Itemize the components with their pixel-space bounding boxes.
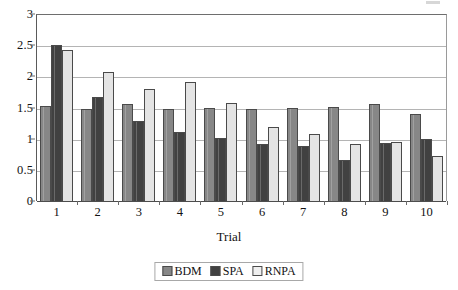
legend-swatch-icon <box>211 266 221 276</box>
x-axis-tick-mark <box>200 201 201 205</box>
legend-swatch-icon <box>253 266 263 276</box>
chart-legend: BDMSPARNPA <box>154 262 303 281</box>
bar-chart-figure: 00.511.522.53 12345678910 Trial BDMSPARN… <box>0 0 458 290</box>
y-axis-labels: 00.511.522.53 <box>0 14 33 201</box>
x-axis-tick-label: 2 <box>78 206 118 219</box>
y-axis-tick-mark <box>30 107 35 108</box>
y-axis-tick-label: 3 <box>3 8 33 21</box>
bar-rnpa-trial-6 <box>268 127 279 201</box>
y-axis-tick-mark <box>30 76 35 77</box>
legend-label: BDM <box>174 265 201 277</box>
bar-rnpa-trial-7 <box>309 134 320 201</box>
bar-bdm-trial-5 <box>204 108 215 201</box>
x-axis-tick-mark <box>324 201 325 205</box>
bar-bdm-trial-9 <box>369 104 380 201</box>
bar-bdm-trial-6 <box>246 109 257 201</box>
bar-bdm-trial-1 <box>40 106 51 201</box>
x-axis-tick-mark <box>242 201 243 205</box>
bar-bdm-trial-10 <box>410 114 421 201</box>
x-axis-tick-mark <box>406 201 407 205</box>
bar-group <box>40 15 73 201</box>
x-axis-tick-label: 4 <box>160 206 200 219</box>
bar-rnpa-trial-8 <box>350 144 361 201</box>
bar-group <box>204 15 237 201</box>
y-axis-tick-mark <box>30 14 35 15</box>
bar-spa-trial-1 <box>51 45 62 201</box>
legend-item-rnpa: RNPA <box>253 265 296 277</box>
x-axis-tick-label: 1 <box>37 206 77 219</box>
x-axis-tick-mark <box>159 201 160 205</box>
bar-group <box>163 15 196 201</box>
bar-spa-trial-7 <box>298 146 309 201</box>
bar-rnpa-trial-4 <box>185 82 196 201</box>
bar-group <box>410 15 443 201</box>
bar-group <box>122 15 155 201</box>
y-axis-tick-label: 0 <box>3 195 33 208</box>
legend-label: RNPA <box>265 265 296 277</box>
y-axis-tick-label: 0.5 <box>3 164 33 177</box>
bar-group <box>246 15 279 201</box>
legend-label: SPA <box>223 265 244 277</box>
x-axis-tick-label: 6 <box>242 206 282 219</box>
y-axis-tick-mark <box>30 169 35 170</box>
x-axis-tick-mark <box>283 201 284 205</box>
bar-rnpa-trial-5 <box>226 103 237 201</box>
bar-spa-trial-2 <box>92 97 103 201</box>
bar-group <box>369 15 402 201</box>
legend-item-spa: SPA <box>211 265 244 277</box>
bar-spa-trial-9 <box>380 143 391 201</box>
bar-spa-trial-8 <box>339 160 350 201</box>
x-axis-tick-label: 10 <box>406 206 446 219</box>
bar-group <box>81 15 114 201</box>
y-axis-tick-mark <box>30 138 35 139</box>
bar-bdm-trial-2 <box>81 109 92 201</box>
x-axis-tick-label: 5 <box>201 206 241 219</box>
scan-artifact <box>426 1 440 4</box>
bar-rnpa-trial-1 <box>62 50 73 201</box>
x-axis-tick-mark <box>77 201 78 205</box>
x-axis-tick-label: 9 <box>365 206 405 219</box>
bar-spa-trial-6 <box>257 144 268 201</box>
bar-spa-trial-3 <box>133 121 144 201</box>
bar-group <box>328 15 361 201</box>
bar-bdm-trial-4 <box>163 109 174 201</box>
bar-spa-trial-5 <box>215 138 226 201</box>
x-axis-tick-mark <box>447 201 448 205</box>
x-axis-tick-mark <box>365 201 366 205</box>
bar-group <box>287 15 320 201</box>
bar-rnpa-trial-9 <box>391 142 402 201</box>
y-axis-tick-label: 2 <box>3 70 33 83</box>
y-axis-tick-mark <box>30 45 35 46</box>
x-axis-tick-label: 8 <box>324 206 364 219</box>
bar-bdm-trial-8 <box>328 107 339 201</box>
y-axis-tick-mark <box>30 201 35 202</box>
bar-bdm-trial-7 <box>287 108 298 201</box>
bar-series-container <box>37 15 446 201</box>
x-axis-title: Trial <box>0 229 458 245</box>
x-axis-tick-label: 3 <box>119 206 159 219</box>
x-axis-tick-mark <box>118 201 119 205</box>
plot-area <box>36 14 447 201</box>
x-axis-tick-label: 7 <box>283 206 323 219</box>
y-axis-tick-label: 1.5 <box>3 101 33 114</box>
legend-swatch-icon <box>162 266 172 276</box>
legend-item-bdm: BDM <box>162 265 201 277</box>
bar-spa-trial-4 <box>174 132 185 201</box>
bar-bdm-trial-3 <box>122 104 133 201</box>
bar-spa-trial-10 <box>421 139 432 201</box>
y-axis-tick-label: 1 <box>3 132 33 145</box>
bar-rnpa-trial-10 <box>432 156 443 202</box>
bar-rnpa-trial-3 <box>144 89 155 201</box>
y-axis-tick-label: 2.5 <box>3 39 33 52</box>
bar-rnpa-trial-2 <box>103 72 114 201</box>
